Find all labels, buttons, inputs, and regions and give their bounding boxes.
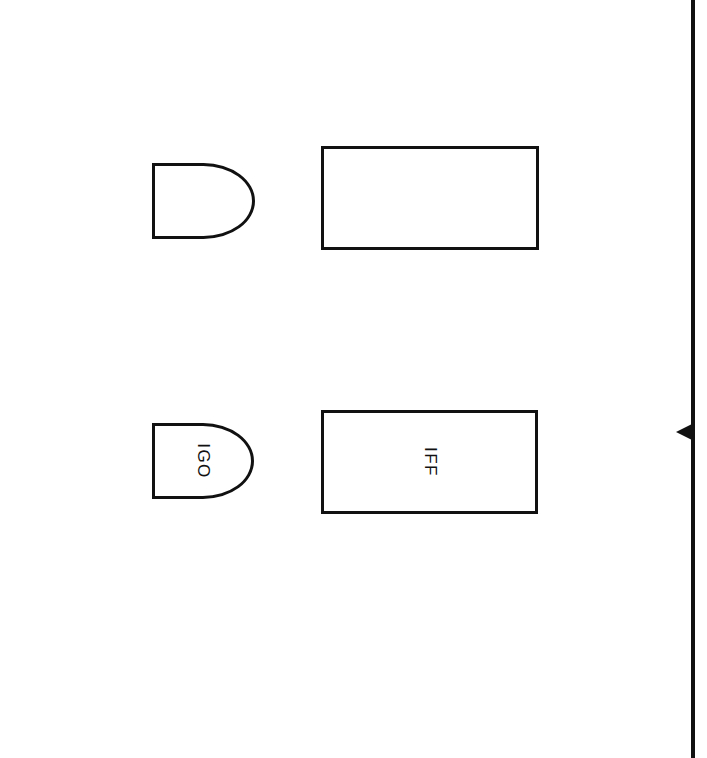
shape-bottom-rectangle[interactable]: IFF: [321, 410, 538, 514]
shape-top-d[interactable]: [152, 163, 255, 239]
left-arrow-icon: [676, 424, 692, 440]
shape-bottom-d[interactable]: IGO: [152, 423, 254, 499]
shape-bottom-d-label: IGO: [195, 443, 212, 479]
vertical-rule: [691, 0, 695, 758]
shape-bottom-rectangle-label: IFF: [421, 447, 438, 477]
diagram-canvas: IGO IFF: [0, 0, 707, 758]
shape-top-rectangle[interactable]: [321, 146, 539, 250]
